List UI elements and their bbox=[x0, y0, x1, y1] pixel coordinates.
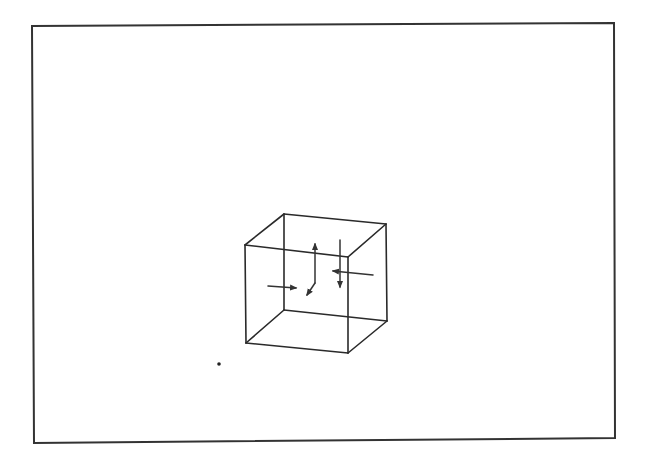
cube-edge bbox=[348, 321, 387, 353]
diagram-canvas bbox=[0, 0, 646, 464]
cube-edge bbox=[284, 310, 387, 321]
arrow-right-icon bbox=[268, 286, 296, 288]
cube-edge bbox=[284, 214, 386, 224]
stray-dot bbox=[217, 362, 221, 366]
cube-edge bbox=[245, 214, 284, 245]
cube-edge bbox=[245, 245, 348, 257]
cube-edge bbox=[245, 245, 246, 343]
arrow-left-icon bbox=[333, 271, 373, 275]
figure-frame bbox=[32, 23, 615, 443]
cube-edge bbox=[386, 224, 387, 321]
cube-edge bbox=[348, 224, 386, 257]
cube-edge bbox=[246, 310, 284, 343]
cube-edge bbox=[246, 343, 348, 353]
wireframe-cube bbox=[245, 214, 387, 353]
arrow-down-left-icon bbox=[307, 283, 315, 295]
